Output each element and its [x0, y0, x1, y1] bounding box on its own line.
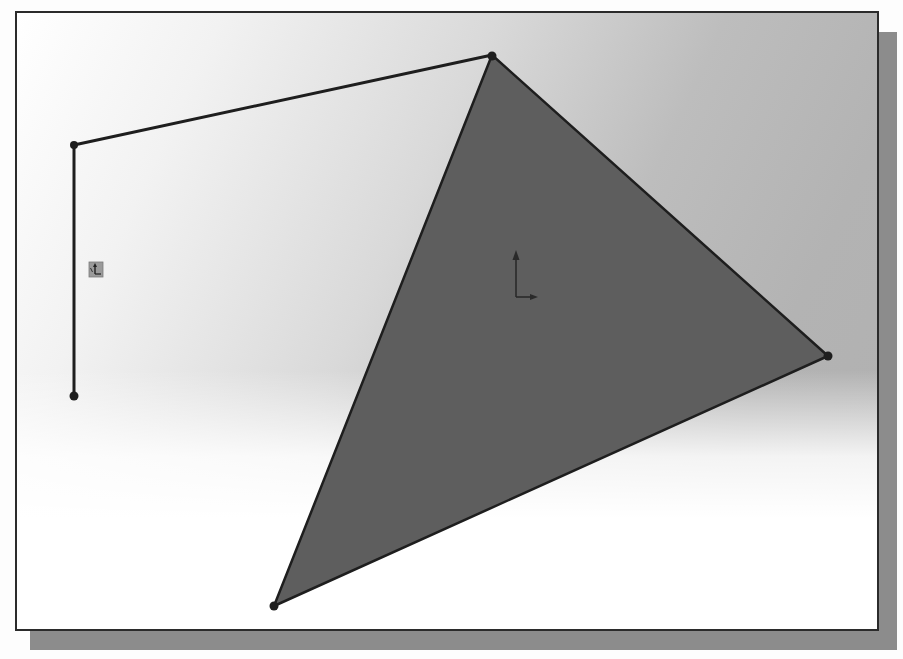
sketch-canvas[interactable]	[0, 0, 903, 659]
sketch-vertex-v3[interactable]	[488, 52, 497, 61]
sketch-vertex-v4[interactable]	[824, 352, 833, 361]
sketch-vertex-v1[interactable]	[70, 141, 78, 149]
sketch-vertex-v5[interactable]	[270, 602, 279, 611]
page: SOLIDWORKS 2D Sketch Viewport sketch ori…	[0, 0, 903, 659]
reference-triad-icon[interactable]	[89, 262, 103, 277]
sketch-triangle-region[interactable]	[274, 55, 828, 606]
sketch-vertex-v2[interactable]	[70, 392, 79, 401]
